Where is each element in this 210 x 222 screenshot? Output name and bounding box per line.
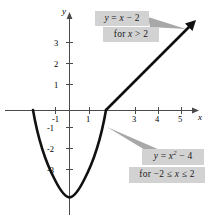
- callout-parabola-cond-prefix: for −2 ≤: [139, 169, 174, 179]
- callout-parabola-cond-rest: ≤ 2: [179, 169, 195, 179]
- callout-parabola-condition: for −2 ≤ x ≤ 2: [129, 167, 205, 183]
- x-tick-label: 4: [155, 114, 159, 124]
- callout-line-cond-prefix: for: [114, 29, 128, 39]
- x-tick-label: 3: [132, 114, 136, 124]
- y-axis-arrowhead: [67, 12, 73, 19]
- callout-line-rhs-rest: − 2: [124, 13, 140, 23]
- y-tick-label: 2: [54, 59, 58, 69]
- callout-parabola-eq: =: [158, 151, 169, 161]
- y-tick-label: 3: [54, 38, 58, 48]
- callout-line-equation: y = x − 2: [95, 11, 149, 26]
- piecewise-function-graph-figure: y x -1 1 3 4 5 3 2 1 -1 -2 -3 y = x − 2 …: [0, 0, 210, 222]
- y-axis-label: y: [62, 6, 66, 16]
- x-tick-label: 5: [178, 114, 182, 124]
- y-tick-label: 1: [54, 80, 58, 90]
- y-tick-label: -3: [47, 165, 54, 175]
- callout-parabola-rhs-rest: − 4: [177, 151, 193, 161]
- callout-parabola-equation: y = x2 − 4: [142, 149, 204, 165]
- x-axis-label: x: [198, 112, 202, 122]
- y-tick-label: -2: [47, 144, 54, 154]
- callout-line-eq: =: [109, 13, 120, 23]
- x-tick-label: 1: [86, 114, 90, 124]
- callout-line-condition: for x > 2: [103, 27, 159, 42]
- y-tick-label: -1: [47, 123, 54, 133]
- callout-line-cond-rest: > 2: [133, 29, 149, 39]
